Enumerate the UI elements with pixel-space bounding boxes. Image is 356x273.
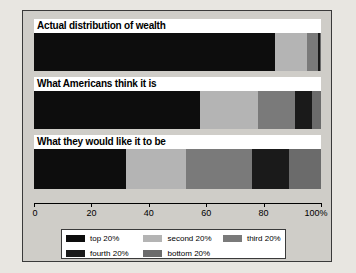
axis-tick-mark [34,203,35,207]
bar-segment-top-20 [34,91,200,129]
axis-tick-label: 100% [304,208,327,218]
legend-swatch-icon [223,235,242,242]
axis-tick-mark [264,203,265,207]
axis-tick-label: 60 [201,208,211,218]
bar-segment-third-20 [258,91,295,129]
legend-label: second 20% [167,234,211,243]
axis-tick-mark [321,203,322,207]
legend-swatch-icon [143,235,162,242]
axis-line [34,203,322,204]
bar-segment-top-20 [34,33,275,71]
axis-tick-label: 20 [86,208,96,218]
bar-segment-third-20 [186,149,252,189]
axis-tick-mark [206,203,207,207]
legend-item-second-20: second 20% [143,234,222,243]
legend-item-bottom-20: bottom 20% [143,249,222,258]
bar-group-actual: Actual distribution of wealth [34,19,322,77]
legend-item-fourth-20: fourth 20% [66,249,143,258]
bar-group-title: What Americans think it is [34,77,321,91]
axis-tick-label: 80 [259,208,269,218]
bar-group-title: Actual distribution of wealth [34,19,321,33]
bar-segment-bottom-20 [312,91,321,129]
legend-label: top 20% [90,234,119,243]
axis-tick-mark [91,203,92,207]
bar-group-would-like: What they would like it to be [34,135,322,195]
bar-segment-second-20 [126,149,186,189]
legend-label: fourth 20% [90,249,129,258]
bar-group-think: What Americans think it is [34,77,322,135]
stacked-bar [34,91,321,129]
bar-segment-top-20 [34,149,126,189]
bar-segment-bottom-20 [320,33,321,71]
legend-row-1: top 20% second 20% third 20% [66,233,281,244]
bar-segment-fourth-20 [252,149,289,189]
legend-swatch-icon [143,250,162,257]
x-axis: 020406080100% [34,203,322,223]
legend-swatch-icon [66,235,85,242]
bar-segment-third-20 [307,33,318,71]
axis-tick-label: 0 [32,208,37,218]
bar-segment-bottom-20 [289,149,321,189]
bar-segment-fourth-20 [295,91,312,129]
chart-figure: Actual distribution of wealth What Ameri… [22,10,332,262]
axis-tick-mark [149,203,150,207]
bar-segment-second-20 [275,33,307,71]
bar-segment-second-20 [200,91,257,129]
plot-area: Actual distribution of wealth What Ameri… [34,19,322,203]
chart-legend: top 20% second 20% third 20% fourth 20% … [61,229,286,259]
legend-item-third-20: third 20% [223,234,281,243]
legend-item-top-20: top 20% [66,234,143,243]
bar-group-title: What they would like it to be [34,135,321,149]
axis-tick-label: 40 [144,208,154,218]
legend-label: bottom 20% [167,249,210,258]
legend-row-2: fourth 20% bottom 20% [66,248,281,259]
stacked-bar [34,149,321,189]
legend-swatch-icon [66,250,85,257]
stacked-bar [34,33,321,71]
legend-label: third 20% [247,234,281,243]
